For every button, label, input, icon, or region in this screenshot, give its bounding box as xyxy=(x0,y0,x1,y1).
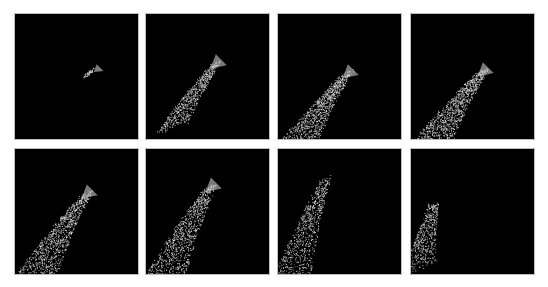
simulation-panel-5 xyxy=(14,148,139,275)
simulation-panel-8 xyxy=(410,148,535,275)
simulation-panel-2 xyxy=(145,13,270,140)
simulation-panel-1 xyxy=(14,13,139,140)
simulation-panel-6 xyxy=(145,148,270,275)
simulation-panel-4 xyxy=(410,13,535,140)
simulation-panel-3 xyxy=(277,13,402,140)
simulation-panel-7 xyxy=(277,148,402,275)
